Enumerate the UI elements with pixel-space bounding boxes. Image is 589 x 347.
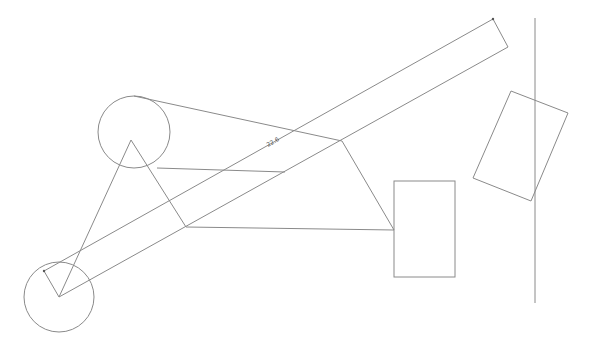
linkage-lines bbox=[59, 18, 535, 303]
strip-end-upper-marker bbox=[492, 18, 494, 20]
long-bar-outline bbox=[44, 19, 508, 297]
belt-top-line bbox=[134, 96, 342, 141]
link-diagonal-line bbox=[342, 141, 394, 230]
blocks bbox=[394, 91, 568, 277]
upper-pulley-circle bbox=[98, 96, 170, 168]
diagram-canvas: 22.6 bbox=[0, 0, 589, 347]
block-tilted bbox=[473, 91, 568, 201]
link-bottom-line bbox=[186, 227, 394, 230]
triangle-right-line bbox=[131, 140, 186, 227]
bar-length-label: 22.6 bbox=[265, 135, 280, 148]
block-upright bbox=[394, 181, 455, 277]
triangle-left-line bbox=[59, 140, 131, 297]
long-bar bbox=[44, 19, 508, 297]
strip-end-lower-marker bbox=[43, 270, 45, 272]
diagram-svg: 22.6 bbox=[0, 0, 589, 347]
